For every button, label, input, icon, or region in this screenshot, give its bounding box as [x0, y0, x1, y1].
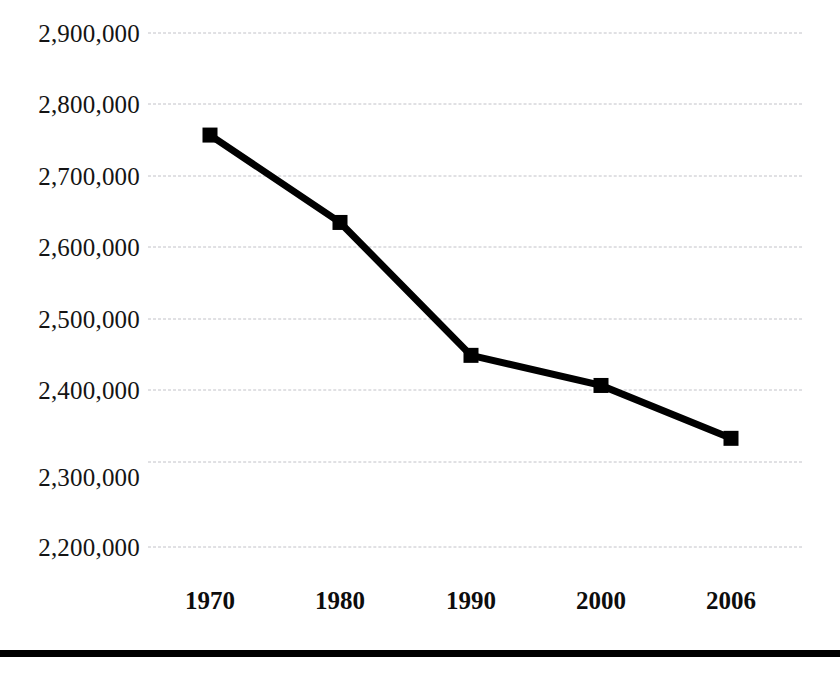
data-point-marker — [464, 348, 479, 363]
chart-page: 2,900,000 2,800,000 2,700,000 2,600,000 … — [0, 0, 840, 677]
series-markers — [203, 128, 739, 446]
footer-rule — [0, 650, 840, 657]
x-axis-tick-label: 1980 — [280, 588, 400, 613]
line-chart: 2,900,000 2,800,000 2,700,000 2,600,000 … — [0, 0, 840, 640]
x-axis-tick-label: 1990 — [411, 588, 531, 613]
x-axis-tick-label: 2000 — [541, 588, 661, 613]
data-point-marker — [724, 431, 739, 446]
series-plot — [0, 0, 840, 640]
x-axis-tick-label: 1970 — [150, 588, 270, 613]
data-point-marker — [333, 215, 348, 230]
series-line — [210, 135, 731, 438]
x-axis-tick-label: 2006 — [671, 588, 791, 613]
data-point-marker — [203, 128, 218, 143]
data-point-marker — [594, 378, 609, 393]
